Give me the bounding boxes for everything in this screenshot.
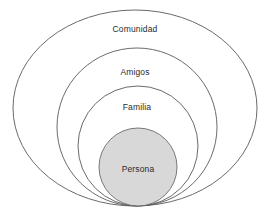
ring-label-comunidad: Comunidad	[113, 24, 158, 34]
nested-circles-diagram: Comunidad Amigos Familia Persona	[0, 0, 270, 215]
ring-label-persona: Persona	[122, 164, 155, 174]
ring-label-familia: Familia	[123, 102, 151, 112]
ring-label-amigos: Amigos	[120, 67, 149, 77]
